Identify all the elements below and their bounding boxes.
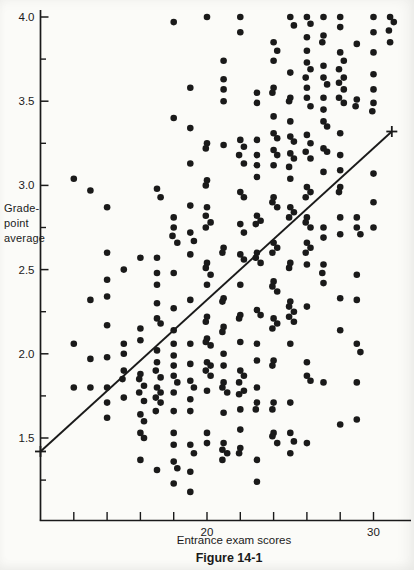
data-point [191,384,198,391]
data-point [170,115,177,122]
data-point [236,379,243,386]
data-point [269,362,276,369]
data-point [241,194,248,201]
data-point [304,84,311,91]
data-point [269,90,276,97]
data-point [187,297,194,304]
y-axis-title-line3: average [4,231,45,246]
data-point [337,130,344,137]
data-point [320,106,327,113]
data-point [241,143,248,150]
data-point [286,98,293,105]
data-point [253,221,260,228]
data-point [203,224,210,231]
data-point [174,465,181,472]
data-point [220,440,227,447]
data-point [187,251,194,258]
data-point [307,244,314,251]
data-point [357,349,364,356]
data-point [187,340,194,347]
data-point [254,340,261,347]
data-point [337,295,344,302]
data-point [170,340,177,347]
data-point [287,118,294,125]
data-point [287,14,294,21]
data-point [170,458,177,465]
data-point [352,103,359,110]
data-point [270,39,277,46]
data-point [386,27,393,34]
data-point [354,416,361,423]
regression-line [41,132,392,452]
data-point [187,489,194,496]
data-point [370,224,377,231]
data-point [274,204,281,211]
data-point [307,189,314,196]
data-point [270,113,277,120]
y-axis-title: Grade- point average [4,201,45,246]
data-point [203,182,210,189]
data-point [170,19,177,26]
data-point [307,155,314,162]
data-point [269,325,276,332]
data-point [337,24,344,31]
y-tick-label: 2.5 [19,264,35,276]
data-point [203,367,210,374]
data-point [137,457,144,464]
data-point [291,155,298,162]
data-point [203,265,210,272]
data-point [220,76,227,83]
data-point [341,74,348,81]
data-point [203,212,210,219]
data-point [370,170,377,177]
data-point [254,357,261,364]
data-point [154,186,161,193]
data-point [254,457,261,464]
data-point [287,340,294,347]
data-point [157,389,164,396]
data-point [320,74,327,81]
data-point [320,14,327,21]
data-point [224,450,231,457]
data-point [304,34,311,41]
data-point [170,441,177,448]
data-point [341,58,348,65]
data-point [291,22,298,29]
data-point [337,231,344,238]
data-point [187,361,194,368]
data-point [207,372,214,379]
data-point [254,479,261,486]
data-point [236,152,243,159]
data-point [304,440,311,447]
data-point [104,415,111,422]
data-point [304,59,311,66]
data-point [307,66,314,73]
data-point [286,314,293,321]
data-point [257,260,264,267]
x-axis-title: Entrance exam scores [128,534,340,546]
data-point [237,29,244,36]
data-point [269,199,276,206]
data-point [187,377,194,384]
data-point [274,288,281,295]
data-point [71,384,78,391]
data-point [207,362,214,369]
data-point [203,319,210,326]
data-point [291,308,298,315]
data-point [87,187,94,194]
data-point [370,100,377,107]
data-point [104,354,111,361]
data-point [257,312,264,319]
data-point [319,270,326,277]
data-point [354,271,361,278]
data-point [191,450,198,457]
data-point [370,29,377,36]
data-point [302,74,309,81]
data-point [154,300,161,307]
data-point [391,19,398,26]
data-point [336,66,343,73]
data-point [207,342,214,349]
data-point [274,135,281,142]
data-point [241,256,248,263]
data-point [219,250,226,257]
